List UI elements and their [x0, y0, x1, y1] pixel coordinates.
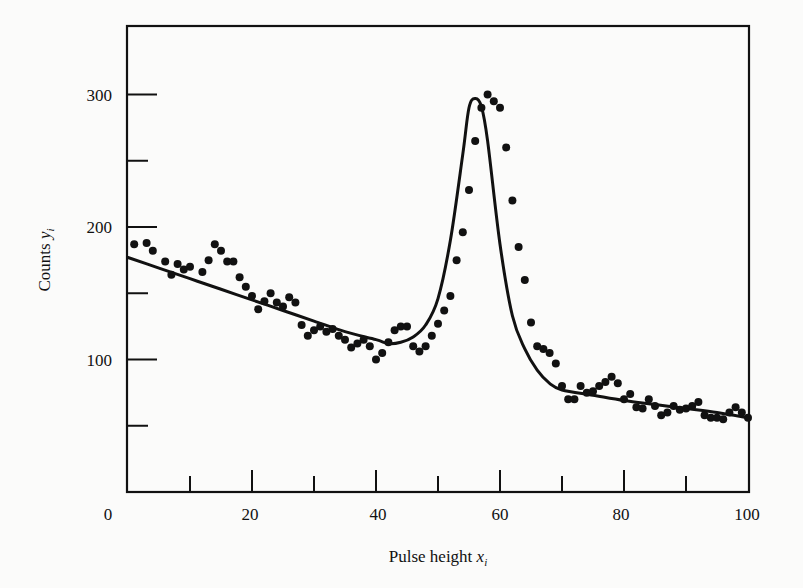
x-axis-title: Pulse height xi — [389, 547, 487, 568]
plot-frame — [127, 26, 749, 492]
data-point — [248, 292, 256, 300]
data-point — [496, 104, 504, 112]
data-point — [143, 239, 151, 247]
data-point — [725, 409, 733, 417]
data-point — [626, 390, 634, 398]
data-point — [211, 240, 219, 248]
data-point — [651, 402, 659, 410]
data-point — [174, 260, 182, 268]
x-axis-tick-labels: 020406080100 — [104, 505, 760, 524]
data-point — [744, 414, 752, 422]
data-point — [403, 322, 411, 330]
data-point — [570, 395, 578, 403]
data-point — [236, 273, 244, 281]
data-point — [205, 256, 213, 264]
data-point — [254, 305, 262, 313]
data-point — [471, 137, 479, 145]
data-point — [198, 268, 206, 276]
data-point — [304, 332, 312, 340]
data-point — [149, 247, 157, 255]
data-point — [639, 405, 647, 413]
x-tick-label: 20 — [242, 505, 259, 524]
data-point — [614, 379, 622, 387]
data-point — [242, 283, 250, 291]
data-point — [378, 349, 386, 357]
data-point — [719, 415, 727, 423]
data-point — [738, 409, 746, 417]
x-tick-label: 40 — [370, 505, 387, 524]
x-tick-label: 60 — [492, 505, 509, 524]
data-point — [601, 378, 609, 386]
data-point — [521, 276, 529, 284]
data-point — [465, 186, 473, 194]
data-point — [558, 382, 566, 390]
y-axis-title: Counts yi — [35, 228, 56, 291]
data-point — [459, 228, 467, 236]
data-point — [366, 342, 374, 350]
data-point — [130, 240, 138, 248]
data-point — [477, 104, 485, 112]
data-point — [527, 318, 535, 326]
data-point — [422, 342, 430, 350]
data-points — [130, 91, 752, 424]
data-point — [453, 256, 461, 264]
data-point — [372, 356, 380, 364]
data-point — [732, 403, 740, 411]
data-point — [217, 247, 225, 255]
data-point — [552, 359, 560, 367]
data-point — [186, 263, 194, 271]
y-axis-tick-labels: 100200300 — [87, 86, 113, 370]
data-point — [546, 349, 554, 357]
chart: 020406080100 100200300 Pulse height xi C… — [0, 0, 803, 588]
data-point — [577, 382, 585, 390]
data-point — [409, 342, 417, 350]
data-point — [260, 297, 268, 305]
data-point — [298, 321, 306, 329]
data-point — [484, 91, 492, 99]
data-point — [694, 398, 702, 406]
fit-curve — [128, 98, 748, 417]
data-point — [589, 387, 597, 395]
data-point — [267, 289, 275, 297]
data-point — [341, 336, 349, 344]
data-point — [502, 144, 510, 152]
data-point — [608, 373, 616, 381]
data-point — [291, 299, 299, 307]
data-point — [434, 320, 442, 328]
data-point — [515, 243, 523, 251]
data-point — [167, 271, 175, 279]
x-tick-label: 80 — [613, 505, 630, 524]
data-point — [329, 325, 337, 333]
data-point — [285, 293, 293, 301]
data-point — [446, 292, 454, 300]
data-point — [663, 409, 671, 417]
x-tick-label: 0 — [104, 505, 113, 524]
x-axis-ticks — [190, 470, 686, 492]
data-point — [440, 306, 448, 314]
data-point — [279, 303, 287, 311]
y-tick-label: 300 — [87, 86, 113, 105]
x-tick-label: 100 — [734, 505, 760, 524]
data-point — [620, 395, 628, 403]
data-point — [229, 257, 237, 265]
data-point — [490, 97, 498, 105]
data-point — [645, 395, 653, 403]
data-point — [161, 257, 169, 265]
y-tick-label: 100 — [87, 351, 113, 370]
data-point — [428, 332, 436, 340]
axes-box — [127, 26, 749, 492]
y-tick-label: 200 — [87, 218, 113, 237]
data-point — [316, 322, 324, 330]
data-point — [415, 348, 423, 356]
data-point — [384, 338, 392, 346]
data-point — [360, 336, 368, 344]
data-point — [508, 197, 516, 205]
